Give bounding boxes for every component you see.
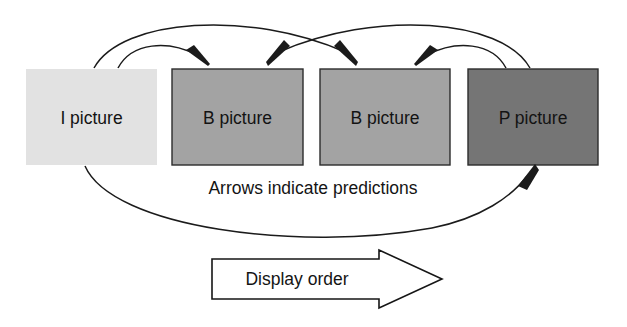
- predictions-note-label: Arrows indicate predictions: [208, 178, 417, 198]
- p-to-b1-arc: [279, 25, 530, 68]
- i-to-b1-arrowhead: [186, 45, 210, 66]
- prediction-arrow-i-to-b2: [94, 25, 358, 68]
- p-to-b1-arrowhead: [266, 40, 290, 66]
- p-picture-label: P picture: [499, 108, 568, 128]
- prediction-arrow-p-to-b2: [414, 45, 506, 68]
- picture-box-p-picture[interactable]: P picture: [468, 69, 598, 165]
- i-picture-label: I picture: [60, 108, 122, 128]
- i-to-b1-arc: [118, 46, 197, 68]
- prediction-diagram: I picture B picture B picture P picture: [0, 0, 627, 327]
- b-picture-1-label: B picture: [203, 108, 272, 128]
- display-order-label: Display order: [245, 269, 348, 289]
- i-to-b2-arrowhead: [334, 40, 358, 66]
- i-to-b2-arc: [94, 25, 345, 68]
- p-to-b2-arrowhead: [414, 45, 438, 66]
- diagram-canvas: I picture B picture B picture P picture: [0, 0, 627, 327]
- picture-box-b-picture-1[interactable]: B picture: [172, 69, 303, 165]
- b-picture-2-label: B picture: [350, 108, 419, 128]
- picture-box-b-picture-2[interactable]: B picture: [320, 69, 450, 165]
- picture-box-i-picture[interactable]: I picture: [26, 69, 157, 165]
- prediction-arrow-i-to-p: [85, 164, 539, 237]
- picture-boxes-group: I picture B picture B picture P picture: [26, 69, 598, 165]
- p-to-b2-arc: [427, 46, 506, 68]
- prediction-arrow-p-to-b1: [266, 25, 530, 68]
- display-order-arrow: Display order: [212, 250, 442, 308]
- prediction-arrow-i-to-b1: [118, 45, 210, 68]
- i-to-p-arrowhead: [518, 164, 539, 190]
